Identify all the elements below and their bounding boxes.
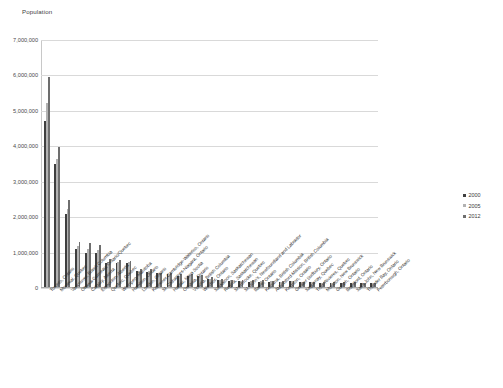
x-axis-label: Toronto, Ontario	[49, 289, 53, 293]
x-axis-label: Vancouver, British Columbia	[70, 289, 74, 293]
bar-group	[164, 40, 174, 287]
x-axis-label: St. Catharines-Niagara, Ontario	[161, 289, 165, 293]
x-axis-label: Victoria, British Columbia	[192, 289, 196, 293]
x-axis-label: Regina, Saskatchewan	[223, 289, 227, 293]
x-axis-label: Guelph, Ontario	[335, 289, 339, 293]
bar-group	[83, 40, 93, 287]
bar-group	[174, 40, 184, 287]
x-axis-label: Moncton, New Brunswick	[325, 289, 329, 293]
y-axis-title: Population	[22, 8, 52, 15]
legend-item[interactable]: 2000	[463, 192, 481, 198]
bar-group	[154, 40, 164, 287]
x-axis-label: Kelowna, British Columbia	[264, 289, 268, 293]
bar-group	[42, 40, 52, 287]
legend-item[interactable]: 2005	[463, 203, 481, 209]
x-axis-label: Thunder Bay, Ontario	[366, 289, 370, 293]
bar-group	[348, 40, 358, 287]
x-axis-label: Barrie, Ontario	[253, 289, 257, 293]
x-axis-label: Oshawa, Ontario	[182, 289, 186, 293]
x-axis-label: Calgary, Alberta	[90, 289, 94, 293]
plot-area: 7,000,0006,000,0005,000,0004,000,0003,00…	[41, 40, 378, 288]
y-axis-tick-label: 3,000,000	[13, 179, 38, 185]
x-axis-label: Trois-Rivieres, Quebec	[315, 289, 319, 293]
y-axis-tick-label: 0	[35, 285, 38, 291]
bar-group	[73, 40, 83, 287]
x-axis-label: Montreal, Quebec	[59, 289, 63, 293]
y-axis-tick-label: 5,000,000	[13, 108, 38, 114]
bar-group	[297, 40, 307, 287]
legend-swatch-icon	[463, 194, 466, 197]
bar	[48, 77, 50, 287]
y-axis-tick-label: 7,000,000	[13, 37, 38, 43]
bar-group	[266, 40, 276, 287]
bar-group	[134, 40, 144, 287]
x-axis-label: Greater Sudbury, Ontario	[294, 289, 298, 293]
bar	[58, 147, 60, 287]
x-axis-label: Halifax, Nova Scotia	[172, 289, 176, 293]
bar-group	[256, 40, 266, 287]
bar-group	[358, 40, 368, 287]
bar-group	[93, 40, 103, 287]
bar-group	[215, 40, 225, 287]
legend-swatch-icon	[463, 215, 466, 218]
legend-item[interactable]: 2012	[463, 213, 481, 219]
bar-group	[368, 40, 378, 287]
x-axis-label: Windsor, Ontario	[202, 289, 206, 293]
x-axis-labels: Toronto, OntarioMontreal, QuebecVancouve…	[41, 289, 378, 385]
x-axis-label: London, Ontario	[141, 289, 145, 293]
legend-label: 2000	[469, 192, 481, 198]
x-axis-label: Brantford, Ontario	[345, 289, 349, 293]
bar-group	[236, 40, 246, 287]
x-axis-label: Kingston, Ontario	[284, 289, 288, 293]
x-axis-label: Hamilton, Ontario	[131, 289, 135, 293]
bar-group	[337, 40, 347, 287]
legend-swatch-icon	[463, 204, 466, 207]
x-axis-label: Winnipeg, Manitoba	[121, 289, 125, 293]
x-axis-label: Saguenay, Quebec	[304, 289, 308, 293]
x-axis-label: Abbotsford-Mission, British Columbia	[274, 289, 278, 293]
y-axis-tick-label: 6,000,000	[13, 72, 38, 78]
chart-legend: 200020052012	[463, 192, 481, 219]
x-axis-label: Edmonton, Alberta	[100, 289, 104, 293]
x-axis-label: Kitchener-Cambridge-Waterloo, Ontario	[151, 289, 155, 293]
bars-layer	[42, 40, 378, 287]
legend-label: 2005	[469, 203, 481, 209]
bar-group	[327, 40, 337, 287]
bar-group	[144, 40, 154, 287]
x-axis-label: Saskatoon, Saskatchewan	[213, 289, 217, 293]
x-axis-label: St. John's, Newfoundland and Labrador	[243, 289, 247, 293]
bar-group	[246, 40, 256, 287]
population-bar-chart: Population 7,000,0006,000,0005,000,0004,…	[0, 0, 503, 388]
bar-group	[62, 40, 72, 287]
bar-group	[52, 40, 62, 287]
x-axis-label: Peterborough, Ontario	[376, 289, 380, 293]
y-axis-tick-label: 2,000,000	[13, 214, 38, 220]
x-axis-label: Ottawa-Gatineau, Ontario/Quebec	[80, 289, 84, 293]
x-axis-label: Saint John, New Brunswick	[355, 289, 359, 293]
bar-group	[225, 40, 235, 287]
y-axis-tick-label: 1,000,000	[13, 250, 38, 256]
x-axis-label: Quebec, Quebec	[110, 289, 114, 293]
legend-label: 2012	[469, 213, 481, 219]
x-axis-label: Sherbrooke, Quebec	[233, 289, 237, 293]
y-axis-tick-label: 4,000,000	[13, 143, 38, 149]
